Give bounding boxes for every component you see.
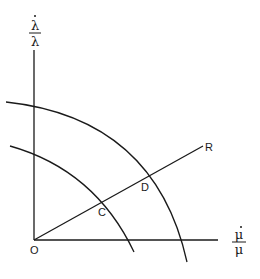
y-label-denominator: λ — [31, 34, 39, 49]
ray-OR — [34, 146, 203, 240]
label-O: O — [30, 244, 39, 256]
label-D: D — [141, 181, 149, 193]
x-label-numerator: μ — [235, 227, 243, 242]
outer-curve — [6, 102, 187, 262]
diagram-canvas: λ λ μ μ O C D R — [0, 0, 260, 279]
y-label-numerator: λ — [31, 18, 39, 33]
y-axis-label: λ λ — [29, 15, 41, 49]
x-axis-label: μ μ — [232, 226, 246, 257]
label-R: R — [205, 141, 213, 153]
dot-accent — [34, 15, 36, 17]
x-label-denominator: μ — [235, 242, 243, 257]
label-C: C — [98, 206, 106, 218]
inner-curve — [10, 146, 134, 252]
